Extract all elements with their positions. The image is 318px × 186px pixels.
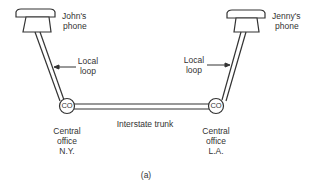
left-loop-arrow-icon xyxy=(54,65,76,69)
co-ny-label: Central office N.Y. xyxy=(50,126,84,156)
john-phone-label: John's phone xyxy=(62,11,87,31)
john-phone-icon xyxy=(16,9,55,32)
interstate-trunk-line xyxy=(74,104,209,109)
co-ny-symbol: CO xyxy=(59,101,75,111)
jenny-phone-label: Jenny's phone xyxy=(272,11,301,31)
diagram-canvas xyxy=(0,0,318,186)
figure-label: (a) xyxy=(136,170,156,180)
right-local-loop-label: Local loop xyxy=(182,55,206,75)
co-la-symbol: CO xyxy=(208,101,224,111)
left-local-loop-label: Local loop xyxy=(76,56,100,76)
interstate-trunk-label: Interstate trunk xyxy=(105,119,185,129)
co-la-label: Central office L.A. xyxy=(199,126,233,156)
jenny-phone-icon xyxy=(227,10,265,32)
right-loop-arrow-icon xyxy=(207,63,230,67)
